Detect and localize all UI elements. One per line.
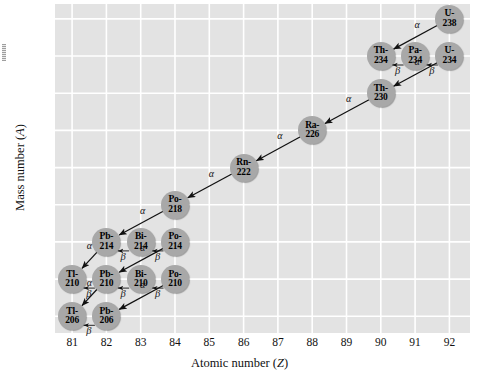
nuclide-mass: 234 xyxy=(443,56,457,66)
decay-chain-figure: U-238Th-234Pa-234U-234Th-230Ra-226Rn-222… xyxy=(0,0,479,377)
decay-mode-label: β xyxy=(395,66,400,77)
decay-mode-label: β xyxy=(121,289,126,300)
x-tick-label: 82 xyxy=(91,337,121,349)
decay-mode-label: α xyxy=(140,280,145,291)
x-tick-label: 87 xyxy=(263,337,293,349)
decay-mode-label: β xyxy=(121,252,126,263)
nuclide-mass: 210 xyxy=(65,279,79,289)
decay-mode-label: α xyxy=(209,169,214,180)
nuclide-node: Po-218 xyxy=(161,191,189,219)
nuclide-mass: 210 xyxy=(168,279,182,289)
decay-mode-label: α xyxy=(140,206,145,217)
y-axis-title: Mass number (A) xyxy=(13,68,28,268)
decay-mode-label: α xyxy=(140,243,145,254)
nuclide-mass: 238 xyxy=(443,19,457,29)
nuclide-mass: 214 xyxy=(100,242,114,252)
nuclide-node: Th-230 xyxy=(367,79,395,107)
nuclide-mass: 226 xyxy=(305,130,319,140)
x-tick-label: 89 xyxy=(332,337,362,349)
nuclide-node: Rn-222 xyxy=(230,154,258,182)
x-tick-label: 81 xyxy=(57,337,87,349)
decay-mode-label: β xyxy=(86,326,91,337)
nuclide-node: Po-210 xyxy=(161,265,189,293)
x-tick-label: 84 xyxy=(160,337,190,349)
decay-mode-label: α xyxy=(277,131,282,142)
decay-mode-label: β xyxy=(155,252,160,263)
x-tick-label: 91 xyxy=(400,337,430,349)
x-tick-label: 83 xyxy=(126,337,156,349)
decay-mode-label: α xyxy=(414,57,419,68)
scan-artifact xyxy=(2,44,6,61)
nuclide-mass: 234 xyxy=(374,56,388,66)
nuclide-mass: 206 xyxy=(100,316,114,326)
decay-mode-label: β xyxy=(86,289,91,300)
x-tick-label: 88 xyxy=(297,337,327,349)
nuclide-mass: 210 xyxy=(100,279,114,289)
decay-mode-label: α xyxy=(414,20,419,31)
plot-area: U-238Th-234Pa-234U-234Th-230Ra-226Rn-222… xyxy=(55,4,470,333)
nuclide-mass: 218 xyxy=(168,205,182,215)
decay-mode-label: β xyxy=(155,289,160,300)
nuclide-mass: 230 xyxy=(374,93,388,103)
decay-mode-label: α xyxy=(346,94,351,105)
x-tick-label: 90 xyxy=(366,337,396,349)
nuclide-mass: 206 xyxy=(65,316,79,326)
nuclide-mass: 214 xyxy=(168,242,182,252)
decay-mode-label: α xyxy=(87,278,92,289)
nuclide-node: Th-234 xyxy=(367,42,395,70)
x-tick-label: 92 xyxy=(434,337,464,349)
x-axis-title: Atomic number (Z) xyxy=(0,356,479,371)
x-tick-label: 85 xyxy=(194,337,224,349)
decay-mode-label: α xyxy=(87,241,92,252)
nuclide-mass: 222 xyxy=(237,168,251,178)
nuclide-node: Po-214 xyxy=(161,228,189,256)
x-tick-label: 86 xyxy=(229,337,259,349)
decay-mode-label: β xyxy=(429,66,434,77)
